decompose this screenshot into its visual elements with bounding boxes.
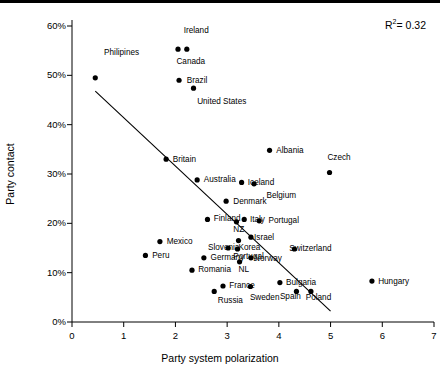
y-tick-label: 40%: [20, 119, 66, 130]
data-point-label: Czech: [327, 154, 350, 162]
data-point[interactable]: [143, 253, 148, 258]
y-tick-label: 50%: [20, 69, 66, 80]
data-point-label: NZ: [233, 226, 244, 234]
x-tick-label: 3: [207, 330, 247, 341]
y-tick-label: 30%: [20, 168, 66, 179]
data-point-label: NL: [239, 266, 249, 274]
data-point-label: Norway: [254, 255, 282, 263]
data-point[interactable]: [220, 283, 225, 288]
x-tick-label: 6: [362, 330, 402, 341]
data-point[interactable]: [242, 217, 247, 222]
data-point-label: United States: [197, 98, 246, 106]
data-point-label: Peru: [152, 252, 169, 260]
data-point[interactable]: [189, 268, 194, 273]
y-axis-title-group: Party contact: [4, 143, 16, 204]
data-point[interactable]: [176, 78, 181, 83]
y-tick-label: 60%: [20, 20, 66, 31]
data-point-label: Poland: [306, 294, 332, 302]
data-point-label: Hungary: [378, 278, 409, 286]
data-point-label: Bulgaria: [286, 279, 316, 287]
data-point[interactable]: [184, 47, 189, 52]
r-squared-value: = 0.32: [397, 19, 427, 31]
data-point-label: Sweden: [250, 294, 280, 302]
y-axis-title: Party contact: [4, 143, 16, 204]
data-point[interactable]: [277, 280, 282, 285]
data-point[interactable]: [195, 177, 200, 182]
data-point-label: Belgium: [266, 192, 296, 200]
data-point[interactable]: [93, 75, 98, 80]
data-point[interactable]: [369, 278, 374, 283]
y-tick-label: 0%: [20, 316, 66, 327]
r-squared-symbol: R: [385, 19, 393, 31]
data-point[interactable]: [248, 235, 253, 240]
data-point-label: Spain: [280, 293, 301, 301]
x-tick-label: 0: [52, 330, 92, 341]
data-point-label: Denmark: [233, 198, 266, 206]
data-point[interactable]: [224, 199, 229, 204]
data-point-label: Russia: [218, 297, 243, 305]
data-point-label: Korea: [239, 244, 261, 252]
data-point[interactable]: [239, 180, 244, 185]
data-point[interactable]: [191, 86, 196, 91]
data-point-label: Albania: [276, 147, 303, 155]
data-point-label: France: [229, 282, 254, 290]
x-tick-label: 5: [311, 330, 351, 341]
data-point-label: Mexico: [167, 238, 193, 246]
data-point-label: Portugal: [269, 217, 300, 225]
scatter-plot-figure: Party contact 012345670%10%20%30%40%50%6…: [0, 0, 440, 374]
data-point-label: Philipines: [104, 49, 139, 57]
data-point[interactable]: [201, 255, 206, 260]
data-point[interactable]: [267, 148, 272, 153]
x-tick-label: 1: [104, 330, 144, 341]
data-point[interactable]: [212, 289, 217, 294]
x-tick-label: 7: [414, 330, 440, 341]
data-point-label: Slovenia: [208, 244, 239, 252]
data-point-label: Canada: [176, 58, 205, 66]
y-tick-label: 20%: [20, 217, 66, 228]
x-axis-title: Party system polarization: [0, 352, 440, 364]
data-point[interactable]: [157, 239, 162, 244]
data-point-label: Italy: [250, 216, 265, 224]
data-point[interactable]: [164, 157, 169, 162]
r-squared-annotation: R2= 0.32: [385, 18, 426, 31]
data-point-label: Romania: [198, 266, 231, 274]
x-tick-label: 2: [155, 330, 195, 341]
data-point[interactable]: [175, 47, 180, 52]
data-point[interactable]: [327, 170, 332, 175]
x-tick-label: 4: [259, 330, 299, 341]
data-point-label: Israel: [254, 234, 274, 242]
data-point-label: Germany: [211, 254, 245, 262]
data-point-label: Iceland: [248, 179, 274, 187]
data-point-label: Britain: [173, 156, 196, 164]
data-point-label: Switzerland: [289, 245, 331, 253]
data-point-label: Finland: [214, 215, 241, 223]
data-point[interactable]: [205, 217, 210, 222]
plot-canvas: Party contact: [0, 0, 440, 374]
data-point-label: Brazil: [187, 77, 207, 85]
y-tick-label: 10%: [20, 267, 66, 278]
data-point-label: Ireland: [184, 27, 209, 35]
data-point-label: Australia: [204, 176, 236, 184]
